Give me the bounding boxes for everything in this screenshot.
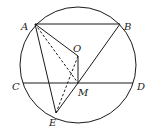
segment-eo — [56, 56, 78, 113]
segment-me — [56, 83, 78, 113]
point-labels: A B O C D M E — [12, 21, 145, 128]
dashed-segments — [35, 24, 78, 113]
segment-mb — [78, 24, 120, 83]
label-m: M — [77, 87, 89, 98]
solid-segments — [23, 24, 133, 113]
label-a: A — [20, 21, 28, 32]
label-e: E — [48, 117, 57, 128]
geometry-diagram: A B O C D M E — [0, 0, 152, 131]
label-b: B — [123, 21, 131, 32]
label-o: O — [73, 43, 81, 54]
diagram-canvas: A B O C D M E — [0, 0, 152, 131]
label-d: D — [136, 81, 145, 92]
label-c: C — [12, 81, 20, 92]
